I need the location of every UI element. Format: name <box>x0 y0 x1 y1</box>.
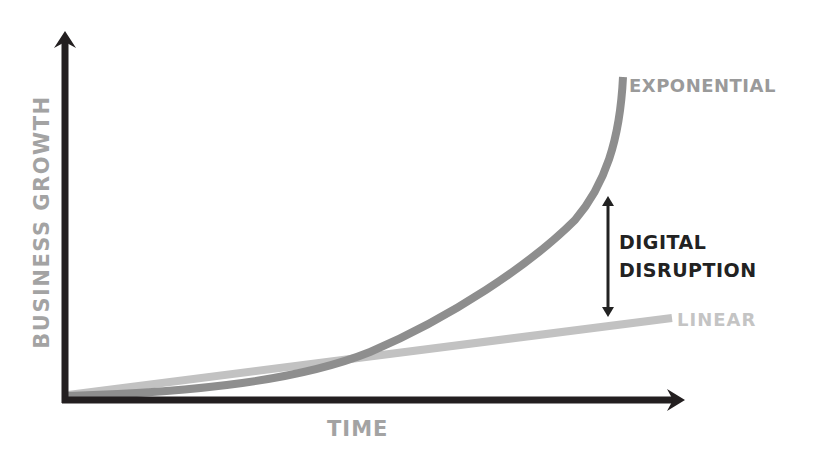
x-axis-label: TIME <box>327 417 388 441</box>
y-axis-label: BUSINESS GROWTH <box>30 95 54 348</box>
arrow-down-icon <box>602 307 614 317</box>
disruption-line2: DISRUPTION <box>619 256 757 284</box>
digital-disruption-label: DIGITAL DISRUPTION <box>619 228 757 284</box>
exponential-label: EXPONENTIAL <box>629 75 776 96</box>
arrow-up-icon <box>602 196 614 206</box>
exponential-curve <box>68 77 623 396</box>
linear-line <box>68 318 672 395</box>
linear-label: LINEAR <box>677 309 756 330</box>
disruption-line1: DIGITAL <box>619 228 757 256</box>
